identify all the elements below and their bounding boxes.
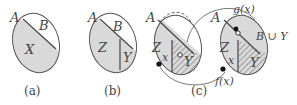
set-diagram-figure: A B X (a) A B Z Y (b) A Z x xyxy=(0,0,297,105)
label-B: B xyxy=(112,19,123,34)
label-Z-right: Z xyxy=(219,40,230,55)
label-x-left: x xyxy=(162,51,169,64)
label-A: A xyxy=(9,10,19,25)
label-Z: Z xyxy=(97,40,108,55)
caption-c: (c) xyxy=(191,84,207,98)
label-x-right: x xyxy=(228,54,235,67)
panel-a: A B X (a) xyxy=(0,0,80,98)
panel-c: A Z x Y A Z x Y B ∪ Y g(x) f(x) (c) xyxy=(145,0,290,98)
label-A-left: A xyxy=(145,10,155,25)
label-Y: Y xyxy=(123,50,133,65)
label-A: A xyxy=(87,10,97,25)
label-Y-right: Y xyxy=(250,55,260,70)
caption-a: (a) xyxy=(24,84,41,98)
label-Z-left: Z xyxy=(151,40,162,55)
label-g-x: g(x) xyxy=(233,3,255,16)
label-f-x: f(x) xyxy=(214,75,234,88)
caption-b: (b) xyxy=(104,84,121,98)
label-X: X xyxy=(24,42,35,57)
label-A-right: A xyxy=(210,10,220,25)
label-Y-left: Y xyxy=(184,54,194,69)
label-B-union-Y: B ∪ Y xyxy=(255,30,289,43)
panel-b: A B Z Y (b) xyxy=(80,0,150,98)
label-B: B xyxy=(38,18,49,33)
